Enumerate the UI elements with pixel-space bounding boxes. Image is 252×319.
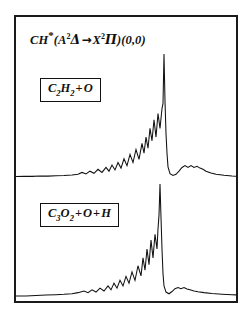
title-band: (0,0) [121,33,145,47]
title-species: CH [30,33,48,47]
page-title: CH*(A2Δ→X2Π)(0,0) [30,30,146,47]
title-upper-state-symbol: Δ [71,32,81,47]
spectrum-trace-bottom [16,180,236,302]
title-lower-state-letter: X [93,33,101,47]
spectrum-svg-top [16,50,236,185]
spectrum-figure: CH*(A2Δ→X2Π)(0,0) C2H2+O C3O2+O+H [0,0,252,319]
spectrum-svg-bottom [16,180,236,302]
spectrum-line-bottom [16,184,236,296]
transition-arrow-icon: → [80,33,92,47]
title-lower-state-symbol: Π [105,32,117,47]
spectrum-line-top [16,54,236,177]
spectrum-trace-top [16,50,236,185]
